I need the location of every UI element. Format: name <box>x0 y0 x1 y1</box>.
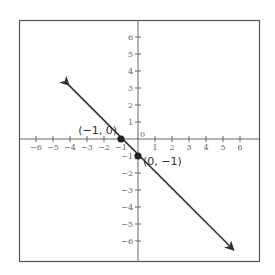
y-tick-label: 4 <box>128 67 133 76</box>
y-tick-label: 1 <box>128 118 133 127</box>
x-tick-label: −3 <box>81 143 93 152</box>
x-tick-label: 3 <box>186 143 191 152</box>
x-tick-label: 6 <box>237 143 242 152</box>
x-tick-label: 5 <box>220 143 225 152</box>
y-tick-label: −6 <box>121 237 133 246</box>
x-tick-label: −6 <box>30 143 42 152</box>
y-tick-label: 5 <box>128 50 133 59</box>
x-tick-label: 1 <box>152 143 157 152</box>
y-tick-label: −4 <box>121 203 133 212</box>
x-tick-label: 2 <box>169 143 174 152</box>
point-label: (0, −1) <box>143 155 182 168</box>
y-tick-label: −1 <box>121 152 133 161</box>
y-tick-label: −2 <box>121 169 133 178</box>
point-marker <box>117 135 124 142</box>
y-tick-label: 6 <box>128 33 133 42</box>
point-marker <box>134 152 141 159</box>
x-tick-label: −1 <box>115 143 127 152</box>
x-tick-label: −5 <box>47 143 59 152</box>
coordinate-plane: −6−5−4−3−2−1123456654321−1−2−3−4−5−60 (−… <box>0 0 275 275</box>
x-tick-label: −2 <box>98 143 110 152</box>
y-tick-label: 2 <box>128 101 133 110</box>
y-tick-label: 3 <box>128 84 133 93</box>
y-tick-label: −5 <box>121 220 133 229</box>
x-tick-label: −4 <box>64 143 76 152</box>
origin-label: 0 <box>140 130 145 139</box>
x-tick-label: 4 <box>203 143 208 152</box>
point-label: (−1, 0) <box>78 124 117 137</box>
y-tick-label: −3 <box>121 186 133 195</box>
